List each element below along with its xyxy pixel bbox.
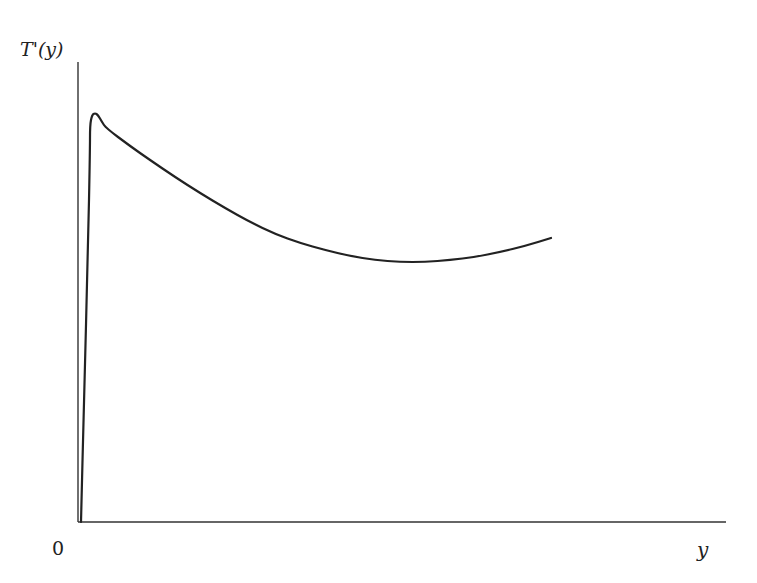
series-line-t-prime [81,114,551,523]
origin-label: 0 [52,537,64,559]
chart-canvas [0,0,757,583]
x-axis-label: y [697,538,708,562]
y-axis-label: T'(y) [20,38,63,60]
